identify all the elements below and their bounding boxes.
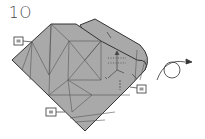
reference-box-right — [130, 85, 146, 93]
origami-diagram — [0, 0, 205, 139]
turn-over-arrow-icon — [157, 59, 192, 80]
